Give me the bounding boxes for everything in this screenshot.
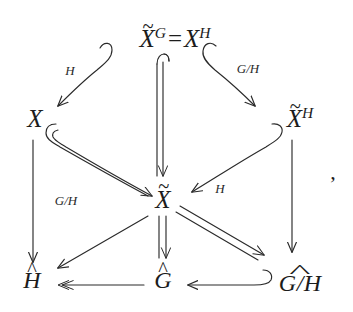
node-right-base: ~X [287,106,302,131]
node-bottom-center: ^G [154,268,171,292]
node-top-base2: X [184,25,199,52]
node-left-base: X [27,105,42,132]
hat-icon: ^ [27,259,37,279]
node-top-sup2: H [199,24,210,41]
node-center-base: ~X [155,187,170,212]
edge-label-right-center-H: H [215,182,224,195]
tilde-icon: ~ [290,96,301,117]
node-bottom-left: ^H [23,268,40,292]
node-bottom-left-base: ^H [23,268,40,292]
node-bottom-right-expr: ^G/H [279,268,321,295]
node-left: X [27,106,42,131]
node-bottom-center-base: ^G [154,268,171,292]
node-right: ~XH [287,105,313,131]
edge-label-left-vertical-G-over-H: G/H [55,194,77,207]
node-top-base1: ~X [139,26,154,51]
edge-label-top-left-H: H [65,64,74,77]
arrow-center-to-bottom-left [58,216,148,268]
arrow-right-to-center [192,124,282,192]
node-center: ~X [155,187,170,212]
node-bottom-right: ^G/H [279,268,321,295]
arrow-left-to-center [46,124,152,196]
equals-sign: = [166,25,184,52]
hat-icon: ^ [158,259,168,279]
trailing-comma: , [330,161,336,183]
tilde-icon: ~ [142,16,153,37]
arrow-bottom-right-to-bottom-center [188,270,272,285]
edge-label-top-right-G-over-H: G/H [237,62,259,75]
arrow-center-to-bottom-right [176,206,264,260]
node-top-sup1: G [155,24,166,41]
widehat-icon: ^ [289,262,310,281]
node-top: ~XG=XH [139,25,210,51]
tilde-icon: ~ [158,176,169,197]
arrow-top-to-center [157,54,169,176]
arrow-center-to-bottom-center [159,216,166,258]
node-right-sup: H [302,104,313,121]
commutative-diagram: ~XG=XH X ~XH ~X ^H ^G ^G/H H G/H G/H H , [0,0,353,312]
